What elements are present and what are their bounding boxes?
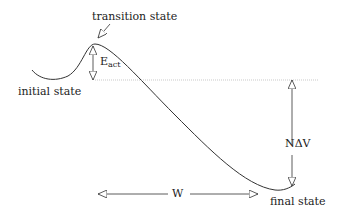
transition-state-label: transition state [92,11,177,22]
eact-sub: act [108,60,120,69]
work-label: W [172,188,183,199]
energy-curve-canvas [0,0,349,217]
transition-state-pointer [98,24,110,38]
eact-label: Eact [100,56,121,69]
initial-state-label: initial state [18,86,81,97]
energy-diagram: transition state initial state Eact NΔV … [0,0,349,217]
ndv-label: NΔV [285,138,311,149]
energy-curve [32,44,295,190]
eact-main: E [100,55,108,68]
final-state-label: final state [270,196,326,207]
